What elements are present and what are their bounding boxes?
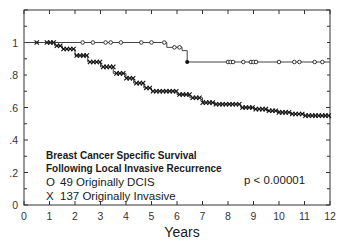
svg-text:11: 11 xyxy=(299,210,310,222)
svg-text:9: 9 xyxy=(251,210,257,222)
series-dcis-curve xyxy=(24,41,330,64)
svg-text:12: 12 xyxy=(324,210,336,222)
svg-text:1: 1 xyxy=(47,210,53,222)
svg-text:0: 0 xyxy=(12,199,18,211)
svg-text:8: 8 xyxy=(225,210,231,222)
svg-text:.4: .4 xyxy=(9,134,18,146)
svg-text:3: 3 xyxy=(98,210,104,222)
svg-text:0: 0 xyxy=(21,210,27,222)
x-axis-label: Years xyxy=(0,224,348,240)
legend-entry-invasive: X137 Originally Invasive xyxy=(46,189,222,203)
svg-text:.2: .2 xyxy=(9,167,18,179)
legend-title-line2: Following Local Invasive Recurrence xyxy=(46,162,222,175)
svg-text:2: 2 xyxy=(72,210,78,222)
p-value-annotation: p < 0.00001 xyxy=(244,174,305,186)
svg-text:7: 7 xyxy=(200,210,206,222)
x-marker-icon: X xyxy=(46,189,60,203)
legend-title-line1: Breast Cancer Specific Survival xyxy=(46,149,222,162)
svg-text:1: 1 xyxy=(12,37,18,49)
legend-label-dcis: 49 Originally DCIS xyxy=(60,176,155,188)
survival-chart: 01234567891011120.2.4.6.81 xyxy=(0,0,348,246)
svg-text:10: 10 xyxy=(273,210,285,222)
legend: Breast Cancer Specific Survival Followin… xyxy=(46,149,222,203)
circle-marker-icon: O xyxy=(46,175,60,189)
svg-text:6: 6 xyxy=(174,210,180,222)
svg-text:5: 5 xyxy=(149,210,155,222)
svg-text:4: 4 xyxy=(123,210,129,222)
svg-text:.6: .6 xyxy=(9,102,18,114)
svg-text:.8: .8 xyxy=(9,69,18,81)
series-invasive-curve xyxy=(24,40,331,119)
legend-entry-dcis: O49 Originally DCIS xyxy=(46,175,222,189)
legend-label-invasive: 137 Originally Invasive xyxy=(60,190,176,202)
